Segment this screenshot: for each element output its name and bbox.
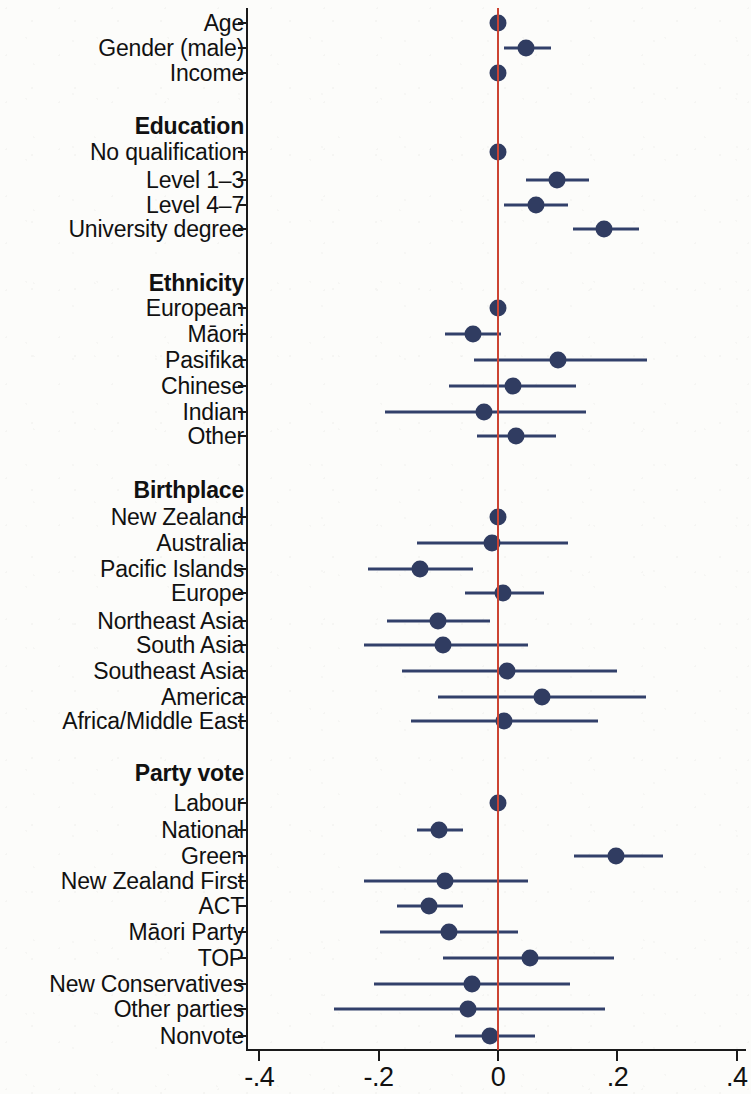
y-axis-tick [238, 204, 247, 206]
x-axis-tick [497, 1051, 499, 1061]
y-axis-tick [238, 435, 247, 437]
x-axis-tick-label: .2 [607, 1062, 629, 1093]
row-label: Māori [187, 321, 244, 348]
x-axis-tick [258, 1051, 260, 1061]
row-label: National [161, 817, 244, 844]
row-label: No qualification [90, 139, 244, 166]
y-axis-tick [238, 855, 247, 857]
group-header-label: Ethnicity [149, 270, 244, 297]
y-axis-tick [238, 1008, 247, 1010]
y-axis-tick [238, 411, 247, 413]
estimate-point [533, 689, 550, 706]
y-axis-tick [238, 620, 247, 622]
y-axis-tick [238, 333, 247, 335]
zero-reference-line [497, 8, 499, 1050]
estimate-point [498, 663, 515, 680]
y-axis-tick [238, 1035, 247, 1037]
x-axis-tick [616, 1051, 618, 1061]
estimate-point [521, 950, 538, 967]
y-axis-tick [238, 542, 247, 544]
estimate-point [430, 613, 447, 630]
y-axis-tick [238, 22, 247, 24]
estimate-point [441, 924, 458, 941]
y-axis-tick [238, 359, 247, 361]
row-label: New Zealand [111, 504, 244, 531]
y-axis-tick [238, 592, 247, 594]
row-label: Labour [174, 790, 244, 817]
x-axis-tick-label: 0 [491, 1062, 506, 1093]
estimate-point [464, 326, 481, 343]
estimate-point [437, 873, 454, 890]
row-label: Africa/Middle East [62, 708, 244, 735]
row-label: Māori Party [129, 919, 244, 946]
row-label: Gender (male) [98, 35, 244, 62]
y-axis-tick [238, 516, 247, 518]
x-axis-tick-label: .4 [726, 1062, 748, 1093]
x-axis-tick [378, 1051, 380, 1061]
y-axis-tick [238, 905, 247, 907]
x-axis-spine [246, 1049, 746, 1051]
row-label: Pasifika [165, 347, 244, 374]
y-axis-tick [238, 880, 247, 882]
y-axis-tick [238, 568, 247, 570]
row-label: Southeast Asia [93, 658, 244, 685]
y-axis-tick [238, 720, 247, 722]
row-label: Europe [171, 580, 244, 607]
row-label: Other [187, 423, 244, 450]
estimate-point [435, 637, 452, 654]
estimate-point [549, 352, 566, 369]
row-label: Northeast Asia [97, 608, 244, 635]
y-axis-tick [238, 179, 247, 181]
y-axis-tick [238, 644, 247, 646]
x-axis-tick-label: -.4 [244, 1062, 274, 1093]
row-label: Level 4–7 [146, 192, 244, 219]
y-axis-tick [238, 983, 247, 985]
row-label: European [146, 295, 244, 322]
row-label: Other parties [114, 996, 244, 1023]
estimate-point [595, 221, 612, 238]
estimate-point [476, 404, 493, 421]
estimate-point [528, 197, 545, 214]
estimate-point [608, 848, 625, 865]
estimate-point [549, 172, 566, 189]
estimate-point [460, 1001, 477, 1018]
row-label: Level 1–3 [146, 167, 244, 194]
estimate-point [411, 561, 428, 578]
row-label: Chinese [161, 373, 244, 400]
group-header-label: Education [135, 113, 244, 140]
row-label: New Conservatives [49, 971, 244, 998]
estimate-point [507, 428, 524, 445]
row-label: Indian [183, 399, 244, 426]
y-axis-tick [238, 72, 247, 74]
y-axis-tick [238, 307, 247, 309]
y-axis-tick [238, 931, 247, 933]
estimate-point [421, 898, 438, 915]
row-label: Pacific Islands [100, 556, 244, 583]
row-label: South Asia [136, 632, 244, 659]
row-label: Green [181, 843, 244, 870]
row-label: New Zealand First [61, 868, 244, 895]
y-axis-tick [238, 228, 247, 230]
y-axis-tick [238, 696, 247, 698]
group-header-label: Party vote [135, 760, 244, 787]
y-axis-spine [246, 8, 248, 1050]
forest-plot-figure: -.4-.20.2.4AgeGender (male)IncomeEducati… [0, 0, 751, 1094]
estimate-point [504, 378, 521, 395]
estimate-point [518, 40, 535, 57]
y-axis-tick [238, 957, 247, 959]
row-label: Income [170, 60, 244, 87]
estimate-point [431, 822, 448, 839]
y-axis-tick [238, 385, 247, 387]
estimate-point [464, 976, 481, 993]
y-axis-tick [238, 802, 247, 804]
row-label: America [161, 684, 244, 711]
y-axis-tick [238, 151, 247, 153]
y-axis-tick [238, 829, 247, 831]
y-axis-tick [238, 47, 247, 49]
x-axis-tick [736, 1051, 738, 1061]
group-header-label: Birthplace [134, 477, 244, 504]
row-label: Australia [156, 530, 244, 557]
x-axis-tick-label: -.2 [364, 1062, 394, 1093]
row-label: University degree [68, 216, 244, 243]
y-axis-tick [238, 670, 247, 672]
